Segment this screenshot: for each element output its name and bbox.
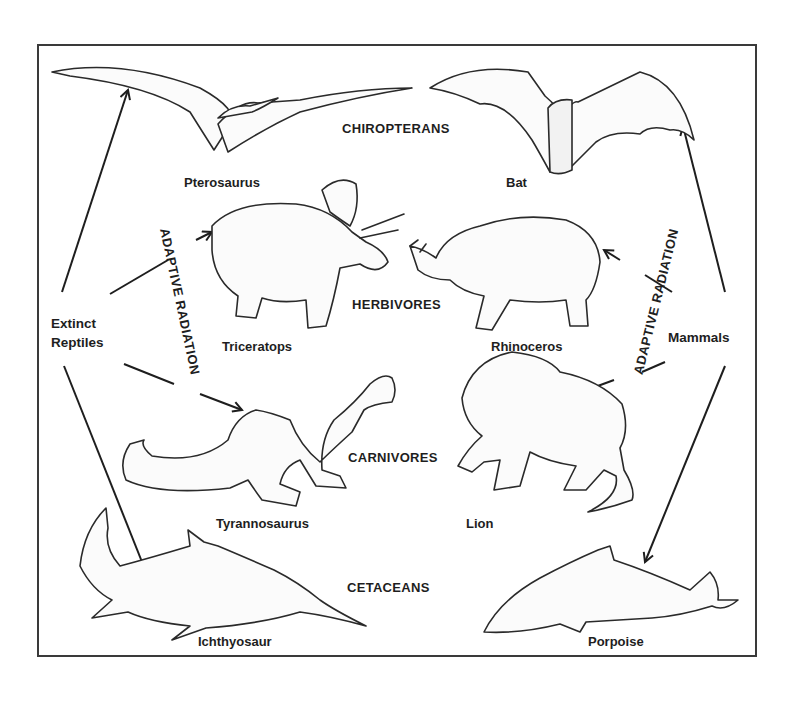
bat-illustration [430,69,694,173]
lion-illustration [458,352,633,512]
pterosaurus-illustration [52,68,412,152]
source-label-line-1: Extinct [51,314,104,333]
source-label-extinct-reptiles: Extinct Reptiles [51,314,104,352]
arrow-to-pterosaurus [62,90,128,292]
source-label-line-2: Reptiles [51,333,104,352]
animal-label-ichthyosaur: Ichthyosaur [198,634,272,650]
animal-label-pterosaurus: Pterosaurus [184,175,260,191]
category-label-cetaceans: CETACEANS [347,580,430,596]
category-label-chiropterans: CHIROPTERANS [342,121,450,137]
animal-label-lion: Lion [466,516,493,532]
arrow-to-tyrannosaurus-1 [124,364,174,384]
animal-label-triceratops: Triceratops [222,339,292,355]
source-label-mammals: Mammals [668,328,730,347]
arrow-to-bat [683,126,725,292]
animal-label-rhinoceros: Rhinoceros [491,339,563,355]
arrow-to-rhinoceros-2 [604,250,620,260]
animal-label-bat: Bat [506,175,527,191]
tyrannosaurus-illustration [123,376,395,506]
animal-label-porpoise: Porpoise [588,634,644,650]
category-label-carnivores: CARNIVORES [348,450,438,466]
arrow-to-triceratops-1 [110,260,168,294]
rhinoceros-illustration [410,217,600,330]
porpoise-illustration [484,546,738,632]
arrow-to-porpoise [645,366,725,562]
animal-label-tyrannosaurus: Tyrannosaurus [216,516,309,532]
arrow-to-triceratops-2 [196,232,212,240]
category-label-herbivores: HERBIVORES [352,297,441,313]
